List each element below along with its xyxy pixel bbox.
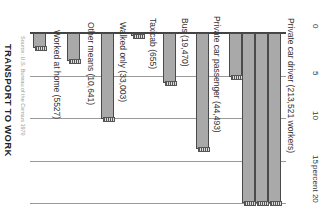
bar-worked-at-home <box>33 33 46 48</box>
label-bus: Bus (19,470) <box>180 18 190 67</box>
chart: TRANSPORT TO WORK Source: U.S. Bureau of… <box>0 0 321 214</box>
bar-other-means <box>67 33 80 61</box>
tick-10: 10 <box>311 111 320 120</box>
label-taxicab: Taxicab (655) <box>148 18 158 69</box>
tick-15: 15 <box>311 155 320 164</box>
label-other-means: Other means (10,641) <box>86 22 96 105</box>
chart-title: TRANSPORT TO WORK <box>3 44 14 157</box>
label-worked-at-home: Worked at home (5527) <box>52 30 62 119</box>
bar-private-car-driver-segment-3 <box>242 33 255 203</box>
bar-taxicab <box>131 33 144 36</box>
label-walked-only: Walked only (33,003) <box>118 22 128 102</box>
bar-private-car-passenger <box>196 33 209 149</box>
tick-5: 5 <box>311 71 320 75</box>
bar-bus <box>163 33 176 83</box>
tick-20-percent: percent 20 <box>311 165 320 203</box>
bar-private-car-driver-segment-4 <box>229 33 242 77</box>
bar-private-car-driver-segment-2 <box>255 33 268 203</box>
tick-0: 0 <box>311 24 320 28</box>
label-private-car-passenger: Private car passenger (44,493) <box>212 16 222 133</box>
source-note: Source: U.S. Bureau of the Census 1970 <box>20 36 26 136</box>
bar-private-car-driver-segment-1 <box>268 33 281 203</box>
bar-walked-only <box>101 33 114 119</box>
label-private-car-driver: Private car driver (213,521 workers) <box>286 18 296 153</box>
